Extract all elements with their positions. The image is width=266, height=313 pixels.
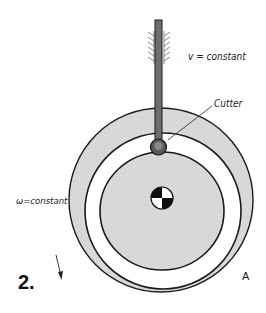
velocity-label: v = constant xyxy=(188,51,246,62)
follower-rod xyxy=(155,20,162,146)
cutter-label: Cutter xyxy=(214,98,242,109)
figure-number: 2. xyxy=(18,271,35,294)
diagram-graphic xyxy=(0,0,266,313)
inner-cam xyxy=(100,152,224,270)
cam-cutter-diagram: v = constant Cutter ω=constant 2. A xyxy=(0,0,266,313)
cutter xyxy=(151,139,167,155)
point-label-a: A xyxy=(242,270,249,282)
rotation-arrow-icon xyxy=(56,255,63,280)
angular-velocity-label: ω=constant xyxy=(16,195,67,206)
center-mark-icon xyxy=(151,187,173,209)
